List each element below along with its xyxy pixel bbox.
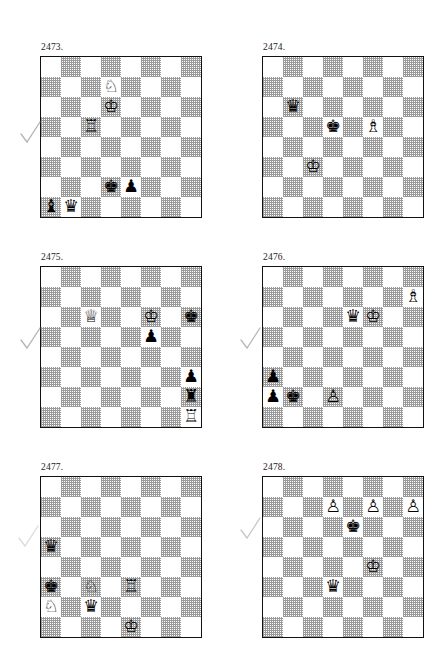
board-square[interactable]: ♘ bbox=[101, 77, 121, 97]
board-square[interactable] bbox=[283, 57, 303, 77]
board-square[interactable] bbox=[403, 597, 423, 617]
board-square[interactable] bbox=[161, 497, 181, 517]
board-square[interactable] bbox=[181, 157, 201, 177]
board-square[interactable] bbox=[141, 477, 161, 497]
board-square[interactable] bbox=[343, 137, 363, 157]
board-square[interactable] bbox=[403, 267, 423, 287]
board-square[interactable] bbox=[363, 197, 383, 217]
board-square[interactable] bbox=[101, 517, 121, 537]
board-square[interactable] bbox=[161, 327, 181, 347]
board-square[interactable] bbox=[41, 267, 61, 287]
board-square[interactable]: ♝ bbox=[41, 197, 61, 217]
board-square[interactable] bbox=[323, 287, 343, 307]
board-square[interactable] bbox=[161, 267, 181, 287]
board-square[interactable] bbox=[403, 387, 423, 407]
board-square[interactable] bbox=[383, 617, 403, 637]
board-square[interactable] bbox=[121, 97, 141, 117]
board-square[interactable]: ♔ bbox=[101, 97, 121, 117]
board-square[interactable] bbox=[343, 497, 363, 517]
board-square[interactable] bbox=[141, 97, 161, 117]
board-square[interactable] bbox=[383, 597, 403, 617]
board-square[interactable]: ♚ bbox=[343, 517, 363, 537]
board-square[interactable] bbox=[121, 497, 141, 517]
board-square[interactable] bbox=[403, 157, 423, 177]
board-square[interactable]: ♖ bbox=[181, 407, 201, 427]
board-square[interactable] bbox=[141, 597, 161, 617]
piece-black-bishop[interactable]: ♝ bbox=[41, 197, 61, 217]
board-square[interactable] bbox=[121, 117, 141, 137]
board-square[interactable] bbox=[61, 177, 81, 197]
piece-white-knight[interactable]: ♘ bbox=[101, 77, 121, 97]
board-square[interactable] bbox=[323, 517, 343, 537]
board-square[interactable] bbox=[363, 537, 383, 557]
board-square[interactable] bbox=[403, 97, 423, 117]
piece-white-king[interactable]: ♔ bbox=[121, 617, 141, 637]
board-square[interactable] bbox=[263, 347, 283, 367]
board-square[interactable] bbox=[263, 307, 283, 327]
board-square[interactable] bbox=[303, 177, 323, 197]
board-square[interactable] bbox=[181, 287, 201, 307]
board-square[interactable] bbox=[41, 347, 61, 367]
board-square[interactable] bbox=[81, 387, 101, 407]
board-square[interactable] bbox=[41, 77, 61, 97]
board-square[interactable] bbox=[101, 537, 121, 557]
board-square[interactable] bbox=[303, 137, 323, 157]
board-square[interactable] bbox=[343, 197, 363, 217]
board-square[interactable] bbox=[81, 157, 101, 177]
board-square[interactable] bbox=[363, 347, 383, 367]
board-square[interactable] bbox=[323, 77, 343, 97]
board-square[interactable] bbox=[101, 617, 121, 637]
board-square[interactable] bbox=[323, 617, 343, 637]
board-square[interactable] bbox=[101, 387, 121, 407]
board-square[interactable] bbox=[383, 477, 403, 497]
board-square[interactable] bbox=[403, 117, 423, 137]
board-square[interactable] bbox=[161, 307, 181, 327]
board-square[interactable] bbox=[161, 137, 181, 157]
board-square[interactable] bbox=[383, 347, 403, 367]
board-square[interactable] bbox=[303, 537, 323, 557]
board-square[interactable] bbox=[81, 57, 101, 77]
board-square[interactable] bbox=[81, 617, 101, 637]
board-square[interactable] bbox=[61, 57, 81, 77]
board-square[interactable] bbox=[363, 577, 383, 597]
board-square[interactable] bbox=[161, 477, 181, 497]
board-square[interactable] bbox=[161, 97, 181, 117]
board-square[interactable]: ♛ bbox=[61, 197, 81, 217]
board-square[interactable] bbox=[61, 347, 81, 367]
piece-black-queen[interactable]: ♛ bbox=[343, 307, 363, 327]
board-square[interactable] bbox=[403, 537, 423, 557]
board-square[interactable] bbox=[383, 387, 403, 407]
board-square[interactable] bbox=[41, 57, 61, 77]
board-square[interactable] bbox=[61, 537, 81, 557]
board-square[interactable] bbox=[303, 267, 323, 287]
piece-black-king[interactable]: ♚ bbox=[323, 117, 343, 137]
board-square[interactable] bbox=[41, 307, 61, 327]
piece-black-queen[interactable]: ♛ bbox=[41, 537, 61, 557]
board-square[interactable] bbox=[141, 177, 161, 197]
board-square[interactable]: ♘ bbox=[41, 597, 61, 617]
board-square[interactable] bbox=[141, 577, 161, 597]
board-square[interactable] bbox=[283, 137, 303, 157]
board-square[interactable]: ♔ bbox=[303, 157, 323, 177]
board-square[interactable] bbox=[181, 557, 201, 577]
board-square[interactable] bbox=[41, 617, 61, 637]
board-square[interactable] bbox=[121, 597, 141, 617]
board-square[interactable] bbox=[323, 157, 343, 177]
board-square[interactable] bbox=[41, 387, 61, 407]
board-square[interactable] bbox=[41, 287, 61, 307]
board-square[interactable] bbox=[323, 407, 343, 427]
piece-black-pawn[interactable]: ♟ bbox=[263, 367, 283, 387]
board-square[interactable] bbox=[403, 617, 423, 637]
board-square[interactable] bbox=[323, 597, 343, 617]
piece-white-king[interactable]: ♔ bbox=[141, 307, 161, 327]
board-square[interactable] bbox=[263, 77, 283, 97]
board-square[interactable] bbox=[181, 77, 201, 97]
board-square[interactable] bbox=[263, 327, 283, 347]
board-square[interactable] bbox=[403, 347, 423, 367]
board-square[interactable] bbox=[161, 387, 181, 407]
board-square[interactable] bbox=[323, 307, 343, 327]
board-square[interactable] bbox=[181, 617, 201, 637]
board-square[interactable] bbox=[283, 307, 303, 327]
board-square[interactable] bbox=[323, 367, 343, 387]
board-square[interactable] bbox=[323, 557, 343, 577]
